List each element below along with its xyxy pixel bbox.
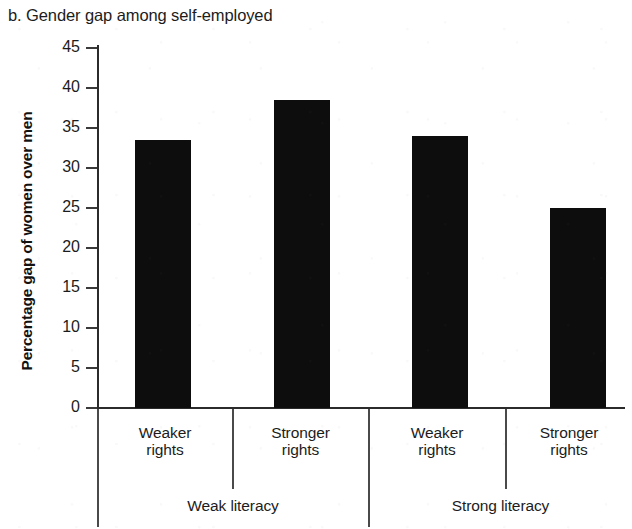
category-label-line1: Weaker xyxy=(99,424,231,441)
bars-layer xyxy=(0,0,632,408)
category-label-line1: Stronger xyxy=(234,424,367,441)
bar-strong-literacy-stronger-rights xyxy=(550,208,606,408)
bar-strong-literacy-weaker-rights xyxy=(412,136,468,408)
chart-figure: b. Gender gap among self-employed Percen… xyxy=(0,0,632,529)
bar-weak-literacy-stronger-rights xyxy=(274,100,330,408)
category-label-line1: Weaker xyxy=(370,424,504,441)
group-label-weak-literacy: Weak literacy xyxy=(99,497,367,514)
category-label-line2: rights xyxy=(507,441,631,458)
category-label-strong-weaker: Weaker rights xyxy=(370,424,504,459)
bar-weak-literacy-weaker-rights xyxy=(135,140,191,408)
category-label-line2: rights xyxy=(234,441,367,458)
group-label-strong-literacy: Strong literacy xyxy=(370,497,631,514)
category-label-line2: rights xyxy=(370,441,504,458)
category-label-line1: Stronger xyxy=(507,424,631,441)
category-label-weak-stronger: Stronger rights xyxy=(234,424,367,459)
category-label-line2: rights xyxy=(99,441,231,458)
category-label-weak-weaker: Weaker rights xyxy=(99,424,231,459)
category-label-strong-stronger: Stronger rights xyxy=(507,424,631,459)
